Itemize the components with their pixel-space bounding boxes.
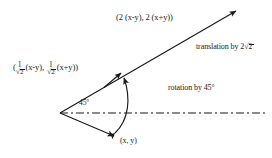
sqrt-icon: √2 <box>16 68 24 76</box>
rotated-point-expression: ( 1 √2 (x-y), 1 √2 (x+y)) <box>13 60 78 75</box>
sqrt-icon: √2 <box>47 68 55 76</box>
fraction-denominator: √2 <box>47 68 55 76</box>
translated-point-label: (2 (x-y), 2 (x+y)) <box>116 13 173 22</box>
translation-note-text: translation by 2 <box>196 42 244 51</box>
original-vector <box>60 113 114 136</box>
rotated-point-label: ( 1 √2 (x-y), 1 √2 (x+y)) <box>13 60 78 75</box>
term-x-minus-y: (x-y), <box>25 63 44 72</box>
fraction-denominator: √2 <box>16 68 24 76</box>
origin-point-label: (x, y) <box>120 137 137 145</box>
angle-label: 45° <box>79 99 89 107</box>
sqrt-icon: √2 <box>244 43 252 51</box>
rotated-point-arrow <box>104 73 121 88</box>
rotation-arc <box>115 78 128 133</box>
term-x-plus-y: (x+y)) <box>57 63 78 72</box>
fraction-one-over-sqrt2: 1 √2 <box>16 61 24 76</box>
geometry-diagram <box>0 0 272 158</box>
rotation-note: rotation by 45° <box>168 84 215 92</box>
translation-note: translation by 2 √2 <box>196 43 252 51</box>
fraction-one-over-sqrt2-second: 1 √2 <box>47 61 55 76</box>
